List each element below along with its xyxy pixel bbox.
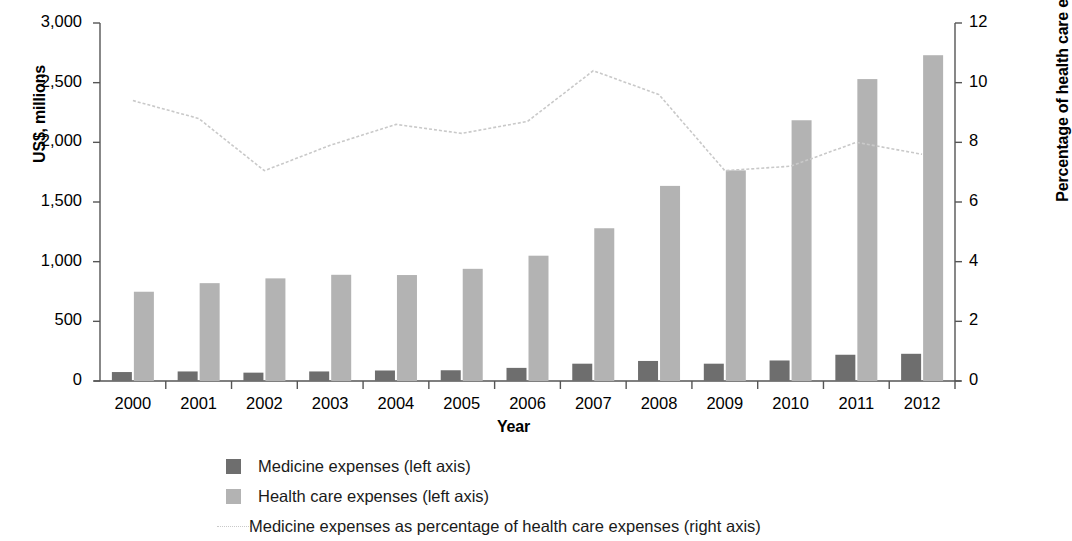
bar [726, 170, 746, 381]
bar [923, 55, 943, 381]
bar [375, 370, 395, 381]
y-tick-label-left: 3,000 [12, 12, 82, 31]
bar [638, 361, 658, 381]
x-tick-label: 2008 [624, 394, 694, 413]
y-tick-label-right: 10 [969, 72, 1019, 91]
bar [265, 278, 285, 381]
chart-legend: Medicine expenses (left axis) Health car… [226, 452, 986, 541]
x-tick-label: 2010 [756, 394, 826, 413]
bar [178, 371, 198, 381]
bar [901, 354, 921, 381]
legend-label: Medicine expenses as percentage of healt… [249, 517, 761, 536]
bar [397, 275, 417, 381]
x-tick-label: 2009 [690, 394, 760, 413]
bar [309, 371, 329, 381]
bar [704, 364, 724, 381]
x-tick-label: 2001 [164, 394, 234, 413]
y-tick-label-left: 1,500 [12, 191, 82, 210]
x-tick-label: 2007 [558, 394, 628, 413]
y-tick-label-right: 12 [969, 12, 1019, 31]
y-tick-label-right: 8 [969, 131, 1019, 150]
x-tick-label: 2004 [361, 394, 431, 413]
x-tick-label: 2005 [427, 394, 497, 413]
x-tick-label: 2000 [98, 394, 168, 413]
bar [857, 79, 877, 381]
bar [134, 292, 154, 381]
bar [529, 256, 549, 381]
y-tick-label-right: 2 [969, 310, 1019, 329]
bar [770, 360, 790, 381]
legend-label: Medicine expenses (left axis) [258, 457, 471, 476]
y-tick-label-right: 4 [969, 251, 1019, 270]
legend-item-medicine-expenses: Medicine expenses (left axis) [226, 452, 986, 480]
legend-label: Health care expenses (left axis) [258, 487, 489, 506]
bar [792, 120, 812, 381]
bar [463, 269, 483, 381]
x-tick-label: 2006 [493, 394, 563, 413]
legend-dotted-line-icon [217, 526, 251, 527]
bar [660, 186, 680, 381]
y-tick-label-right: 6 [969, 191, 1019, 210]
bar [507, 368, 527, 381]
x-tick-label: 2002 [229, 394, 299, 413]
bar [441, 370, 461, 381]
bar [594, 228, 614, 381]
y-tick-label-left: 1,000 [12, 251, 82, 270]
bar [331, 275, 351, 381]
legend-swatch-dark-icon [226, 459, 241, 474]
y-tick-label-left: 2,000 [12, 131, 82, 150]
legend-item-medicine-percentage: Medicine expenses as percentage of healt… [226, 512, 986, 540]
x-tick-label: 2011 [821, 394, 891, 413]
y-tick-label-left: 0 [12, 370, 82, 389]
y-tick-label-left: 2,500 [12, 72, 82, 91]
y-tick-label-left: 500 [12, 310, 82, 329]
y-axis-label-right: Percentage of health care expenses [1054, 0, 1072, 214]
bar [835, 355, 855, 381]
bar [243, 373, 263, 381]
x-tick-label: 2012 [887, 394, 957, 413]
legend-swatch-light-icon [226, 489, 241, 504]
y-tick-label-right: 0 [969, 370, 1019, 389]
bar [112, 372, 132, 381]
x-tick-label: 2003 [295, 394, 365, 413]
bar [200, 283, 220, 381]
legend-item-health-care-expenses: Health care expenses (left axis) [226, 482, 986, 510]
bar [572, 364, 592, 381]
